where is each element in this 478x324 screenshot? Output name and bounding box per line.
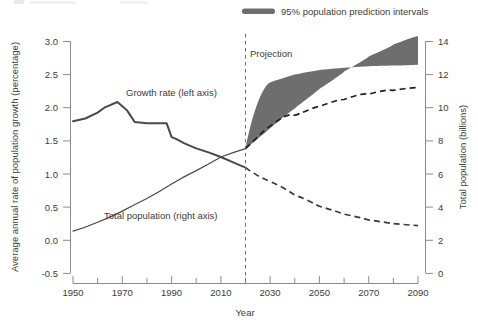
x-tick-label-2010: 2010: [210, 287, 231, 298]
x-tick-label-2070: 2070: [358, 287, 379, 298]
left-tick-label-2-5: 2.5: [45, 69, 58, 80]
left-tick-label-0-5: 0.5: [45, 202, 58, 213]
left-tick-label-3-0: 3.0: [45, 36, 58, 47]
x-tick-label-2030: 2030: [260, 287, 281, 298]
right-tick-label-8: 8: [438, 135, 443, 146]
annotation-growth-rate: Growth rate (left axis): [126, 87, 217, 98]
left-tick-label-1-5: 1.5: [45, 135, 58, 146]
right-tick-label-14: 14: [438, 36, 449, 47]
x-tick-label-1990: 1990: [161, 287, 182, 298]
x-tick-label-1970: 1970: [112, 287, 133, 298]
annotation-total-population: Total population (right axis): [104, 210, 218, 221]
left-axis-title: Average annual rate of population growth…: [9, 42, 20, 272]
chart-svg: 95% population prediction intervals 3.0 …: [0, 0, 478, 324]
right-tick-label-0: 0: [438, 268, 443, 279]
left-tick-label-neg-0-5: -0.5: [42, 268, 58, 279]
x-tick-label-2090: 2090: [407, 287, 428, 298]
legend-label-prediction-interval: 95% population prediction intervals: [281, 6, 429, 17]
x-axis-title: Year: [235, 307, 254, 318]
right-tick-label-6: 6: [438, 169, 443, 180]
legend-swatch-prediction-interval: [242, 9, 275, 15]
x-tick-label-1950: 1950: [62, 287, 83, 298]
annotation-projection: Projection: [250, 48, 292, 59]
left-tick-label-0-0: 0.0: [45, 235, 58, 246]
right-tick-label-4: 4: [438, 202, 443, 213]
right-tick-label-2: 2: [438, 235, 443, 246]
left-tick-label-2-0: 2.0: [45, 102, 58, 113]
right-tick-label-10: 10: [438, 102, 449, 113]
population-growth-figure: 95% population prediction intervals 3.0 …: [0, 0, 478, 324]
x-tick-label-2050: 2050: [309, 287, 330, 298]
chart-canvas: 95% population prediction intervals 3.0 …: [0, 0, 478, 324]
right-tick-label-12: 12: [438, 69, 449, 80]
left-tick-label-1-0: 1.0: [45, 169, 58, 180]
right-axis-title: Total population (billions): [457, 105, 468, 210]
